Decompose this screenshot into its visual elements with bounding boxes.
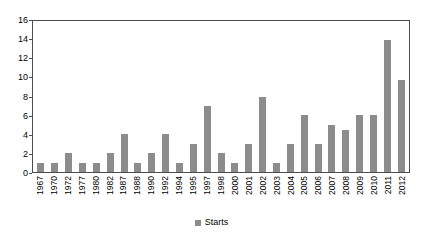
bar-slot [173, 21, 187, 172]
x-axis-tick: 2008 [339, 174, 353, 214]
bar-slot [256, 21, 270, 172]
bar [51, 163, 58, 172]
bar [245, 144, 252, 172]
x-axis-tick-label: 1970 [50, 176, 59, 195]
bar-slot [394, 21, 408, 172]
x-axis-tick: 1997 [200, 174, 214, 214]
x-axis-tick-label: 2012 [398, 176, 407, 195]
bar [259, 97, 266, 173]
plot-area [32, 20, 410, 173]
bar [134, 163, 141, 172]
x-axis-tick-label: 1987 [119, 176, 128, 195]
x-axis-tick: 1995 [186, 174, 200, 214]
bar-slot [367, 21, 381, 172]
bar [148, 153, 155, 172]
bar [121, 134, 128, 172]
x-axis-tick-label: 1977 [77, 176, 86, 195]
x-axis-tick-label: 2009 [356, 176, 365, 195]
bar [176, 163, 183, 172]
bar-slot [48, 21, 62, 172]
x-axis-tick: 1982 [103, 174, 117, 214]
y-axis-tick-label: 0 [23, 169, 28, 178]
bar-slot [242, 21, 256, 172]
x-axis-tick: 2009 [353, 174, 367, 214]
bar-slot [103, 21, 117, 172]
bar-slot [214, 21, 228, 172]
x-axis-tick: 1998 [214, 174, 228, 214]
bar-slot [353, 21, 367, 172]
x-axis-tick-label: 1972 [64, 176, 73, 195]
x-axis-tick: 1992 [158, 174, 172, 214]
bar-slot [325, 21, 339, 172]
bar [231, 163, 238, 172]
x-axis-tick-label: 2008 [342, 176, 351, 195]
bar [356, 115, 363, 172]
bar-slot [186, 21, 200, 172]
x-axis-tick-label: 2006 [314, 176, 323, 195]
bar-slot [380, 21, 394, 172]
x-axis-tick-label: 2005 [300, 176, 309, 195]
bar-slot [283, 21, 297, 172]
x-axis-tick-label: 2003 [272, 176, 281, 195]
x-axis-tick-label: 2011 [384, 176, 393, 194]
bar-slot [270, 21, 284, 172]
x-axis-tick-label: 2000 [231, 176, 240, 195]
bar [287, 144, 294, 172]
x-axis-tick: 1994 [172, 174, 186, 214]
y-axis-tick-label: 6 [23, 111, 28, 120]
bar-chart: 0246810121416 19671970197219771980198219… [0, 0, 423, 238]
y-axis-tick-label: 16 [18, 16, 28, 25]
x-axis-tick-label: 1997 [203, 176, 212, 195]
x-axis-tick: 2001 [242, 174, 256, 214]
x-axis-tick: 2010 [367, 174, 381, 214]
x-axis-tick: 2011 [381, 174, 395, 214]
x-axis-tick-label: 1992 [161, 176, 170, 195]
bar-slot [117, 21, 131, 172]
bar [315, 144, 322, 172]
x-axis: 1967197019721977198019821987198819901992… [32, 174, 410, 214]
y-axis-tick-label: 10 [18, 73, 28, 82]
x-axis-tick: 2004 [284, 174, 298, 214]
x-axis-tick: 1977 [75, 174, 89, 214]
bar-slot [89, 21, 103, 172]
bar [384, 40, 391, 172]
y-axis-tick-label: 8 [23, 92, 28, 101]
bar-slot [34, 21, 48, 172]
x-axis-tick: 1987 [117, 174, 131, 214]
bar-slot [339, 21, 353, 172]
y-axis-tick-label: 12 [18, 54, 28, 63]
x-axis-tick-label: 2001 [245, 176, 254, 195]
x-axis-tick-label: 1988 [133, 176, 142, 195]
legend-swatch-starts [195, 220, 201, 226]
bar-slot [200, 21, 214, 172]
bar [93, 163, 100, 172]
bar [107, 153, 114, 172]
x-axis-tick-label: 2002 [258, 176, 267, 195]
chart-legend: Starts [0, 218, 423, 227]
bar-slot [297, 21, 311, 172]
x-axis-tick: 1990 [144, 174, 158, 214]
legend-label-starts: Starts [205, 218, 229, 227]
x-axis-tick: 1967 [33, 174, 47, 214]
x-axis-tick: 1980 [89, 174, 103, 214]
x-axis-tick: 2000 [228, 174, 242, 214]
x-axis-tick-label: 1998 [217, 176, 226, 195]
bar-series [33, 21, 409, 172]
bar [370, 115, 377, 172]
bar [328, 125, 335, 172]
x-axis-tick: 1988 [130, 174, 144, 214]
x-axis-tick: 2003 [270, 174, 284, 214]
bar-slot [159, 21, 173, 172]
bar-slot [131, 21, 145, 172]
x-axis-tick-label: 1980 [91, 176, 100, 195]
x-axis-tick-label: 2007 [328, 176, 337, 195]
x-axis-tick: 2002 [256, 174, 270, 214]
x-axis-tick: 1970 [47, 174, 61, 214]
x-axis-tick: 2012 [395, 174, 409, 214]
bar [65, 153, 72, 172]
x-axis-tick-label: 1995 [189, 176, 198, 195]
bar [273, 163, 280, 172]
x-axis-tick-label: 1990 [147, 176, 156, 195]
x-axis-tick-label: 2010 [370, 176, 379, 195]
y-axis-tick-label: 14 [18, 35, 28, 44]
